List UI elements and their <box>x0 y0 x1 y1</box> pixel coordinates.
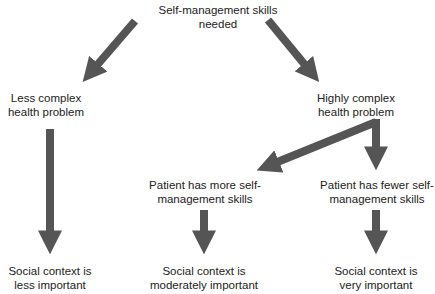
arrows-layer <box>0 0 435 294</box>
node-outcome-very-line2: very important <box>326 278 426 292</box>
arrow-root-to-less-complex <box>92 21 135 71</box>
node-outcome-very-line1: Social context is <box>326 264 426 278</box>
node-outcome-less-line2: less important <box>0 278 100 292</box>
node-outcome-moderate-line2: moderately important <box>144 278 264 292</box>
node-more-skills-line2: management skills <box>140 192 270 206</box>
node-outcome-less: Social context is less important <box>0 264 100 292</box>
node-less-complex-line2: health problem <box>2 105 90 119</box>
node-highly-complex-line1: Highly complex <box>310 91 402 105</box>
node-more-skills-line1: Patient has more self- <box>140 178 270 192</box>
node-highly-complex-line2: health problem <box>310 105 402 119</box>
node-outcome-less-line1: Social context is <box>0 264 100 278</box>
node-less-complex: Less complex health problem <box>2 91 90 119</box>
node-fewer-skills: Patient has fewer self- management skill… <box>311 178 435 206</box>
node-outcome-moderate-line1: Social context is <box>144 264 264 278</box>
node-fewer-skills-line2: management skills <box>311 192 435 206</box>
arrow-highly-complex-to-more-skills <box>270 122 376 165</box>
node-highly-complex: Highly complex health problem <box>310 91 402 119</box>
node-outcome-moderate: Social context is moderately important <box>144 264 264 292</box>
node-fewer-skills-line1: Patient has fewer self- <box>311 178 435 192</box>
node-more-skills: Patient has more self- management skills <box>140 178 270 206</box>
node-outcome-very: Social context is very important <box>326 264 426 292</box>
node-root-line2: needed <box>148 17 288 31</box>
node-root: Self-management skills needed <box>148 3 288 31</box>
node-root-line1: Self-management skills <box>148 3 288 17</box>
node-less-complex-line1: Less complex <box>2 91 90 105</box>
